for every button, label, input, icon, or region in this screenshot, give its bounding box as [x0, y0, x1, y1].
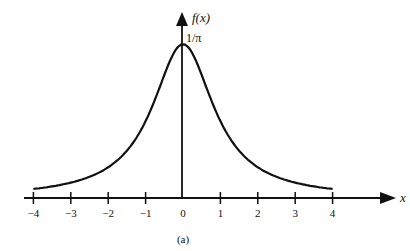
caption: (a)	[177, 233, 190, 246]
chart: −4−3−2−101234 f(x) 1/π x (a)	[0, 0, 410, 251]
y-axis-label: f(x)	[192, 10, 210, 25]
x-tick-label: 2	[255, 207, 261, 219]
x-tick-label: −4	[28, 207, 40, 219]
x-axis-label: x	[399, 190, 406, 205]
x-tick-label: −3	[65, 207, 77, 219]
peak-label: 1/π	[186, 31, 201, 45]
x-tick-label: 0	[180, 207, 186, 219]
x-axis-arrow-icon	[380, 192, 396, 204]
x-tick-label: −2	[102, 207, 114, 219]
x-tick-label: 1	[218, 207, 224, 219]
x-tick-labels: −4−3−2−101234	[28, 207, 336, 219]
y-axis-arrow-icon	[176, 12, 188, 26]
cauchy-curve	[33, 44, 332, 189]
x-tick-label: 4	[330, 207, 336, 219]
x-tick-label: −1	[140, 207, 152, 219]
x-tick-label: 3	[292, 207, 298, 219]
